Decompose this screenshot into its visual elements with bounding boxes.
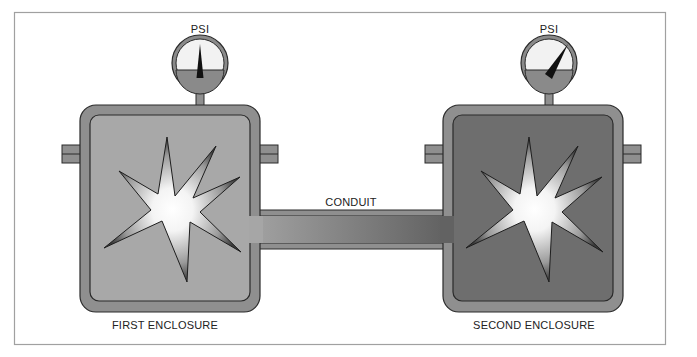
first-enclosure: FIRST ENCLOSURE — [62, 105, 278, 331]
second-enclosure-label: SECOND ENCLOSURE — [473, 319, 595, 331]
first-enclosure-label: FIRST ENCLOSURE — [112, 319, 218, 331]
gauge-right-label: PSI — [540, 23, 558, 35]
explosion-propagation-diagram: PSI PSI CONDUIT FIRST ENCLOS — [0, 0, 697, 357]
conduit-label: CONDUIT — [325, 196, 377, 208]
gauge-left-label: PSI — [191, 23, 209, 35]
second-enclosure: SECOND ENCLOSURE — [425, 105, 641, 331]
